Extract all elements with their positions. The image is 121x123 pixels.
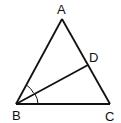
side-ca <box>62 19 110 104</box>
label-d: D <box>89 50 98 65</box>
angle-arc-abd <box>27 85 34 93</box>
label-a: A <box>57 2 66 17</box>
angle-arc-dbc <box>35 94 38 104</box>
label-b: B <box>12 108 21 123</box>
label-c: C <box>105 109 114 123</box>
geometry-diagram: A D B C <box>0 0 121 123</box>
